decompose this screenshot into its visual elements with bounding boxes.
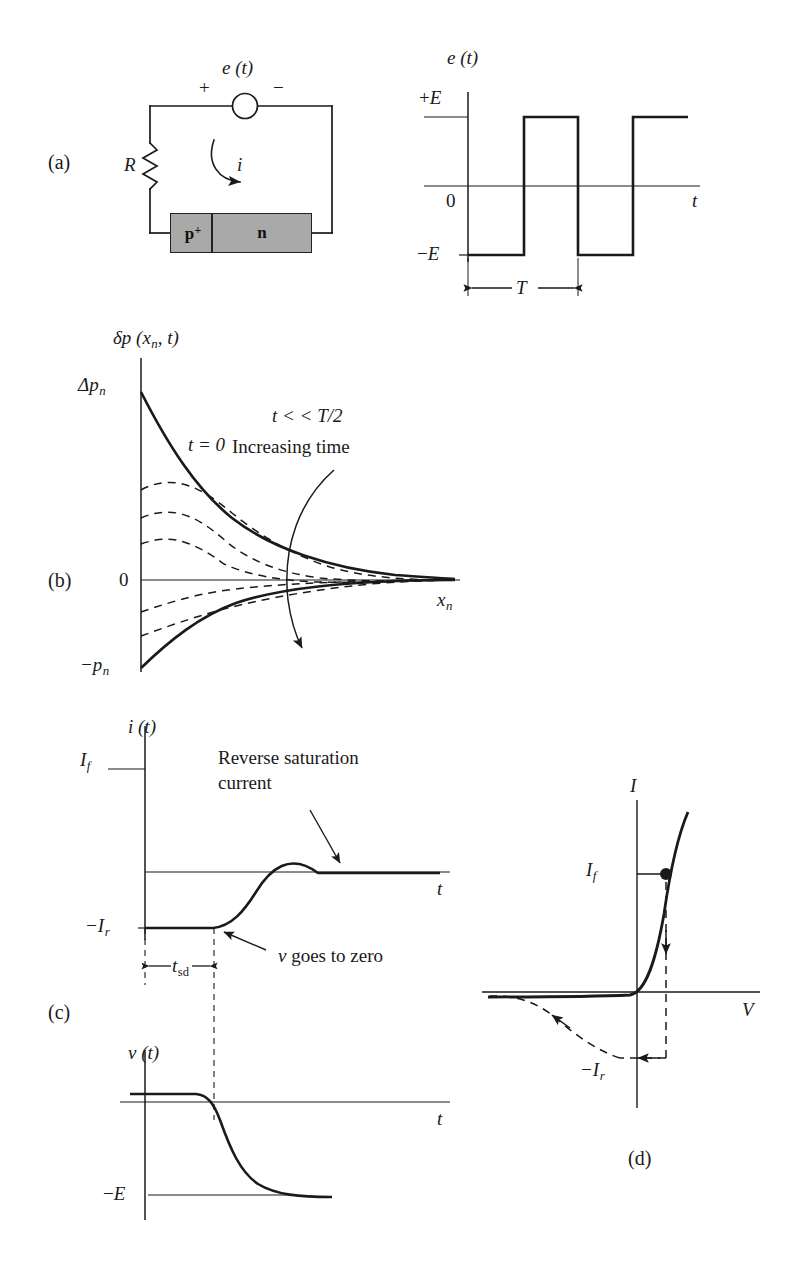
- iv-x-axis-label: V: [742, 1000, 754, 1019]
- waveform-y-axis-label: e (t): [447, 48, 478, 67]
- current-label-minus-ir: −Ir: [85, 916, 110, 939]
- current-x-axis-label: t: [437, 879, 442, 898]
- panel-a-waveform: [424, 92, 700, 296]
- diode-p-text: p: [185, 223, 194, 242]
- iv-reverse-recovery-path: [490, 996, 620, 1058]
- voltage-trace: [130, 1094, 332, 1197]
- carrier-tick-top-sub: n: [99, 383, 106, 398]
- panel-b-tag: (b): [48, 570, 71, 590]
- resistor-label: R: [124, 155, 136, 174]
- waveform-x-axis-label: t: [692, 191, 697, 210]
- voltage-label-minus-e: −E: [103, 1184, 125, 1203]
- iv-curve: [488, 812, 688, 997]
- carrier-annotation-condition: t < < T/2: [272, 406, 343, 425]
- carrier-y-axis-label-main: δp (x: [113, 327, 151, 348]
- storage-delay-label: tsd: [172, 956, 189, 979]
- source-label: e (t): [222, 58, 253, 77]
- carrier-x-axis-label-sub: n: [445, 598, 452, 613]
- current-label-minus-ir-main: −I: [85, 915, 104, 936]
- carrier-tick-zero: 0: [119, 570, 129, 589]
- carrier-tick-top: Δpn: [78, 375, 106, 398]
- current-label-if: If: [80, 750, 90, 773]
- carrier-tick-top-main: Δp: [78, 374, 99, 395]
- current-trace: [145, 863, 440, 928]
- waveform-label-zero: 0: [446, 191, 456, 210]
- v-goes-to-zero-leader: [224, 932, 266, 950]
- current-label-if-sub: f: [86, 758, 90, 773]
- iv-label-if-sub: f: [592, 868, 596, 883]
- panel-a-tag: (a): [48, 152, 70, 172]
- iv-label-minus-ir: −Ir: [580, 1060, 605, 1083]
- figure-root: p+ n (a) e (t) + − R i e (t) +E 0 −E t T…: [0, 0, 800, 1270]
- iv-label-if: If: [586, 860, 596, 883]
- carrier-y-axis-label-sub: n: [151, 336, 158, 351]
- reverse-saturation-annotation-line1: Reverse saturation: [218, 748, 359, 767]
- v-goes-to-zero-annotation: v goes to zero: [278, 946, 383, 965]
- carrier-annotation-t0: t = 0: [188, 435, 225, 454]
- iv-label-minus-ir-sub: r: [599, 1068, 605, 1083]
- carrier-curve-dashed-upper-2: [141, 512, 450, 581]
- current-y-axis-label: i (t): [128, 717, 156, 736]
- carrier-tick-bottom-sub: n: [102, 663, 109, 678]
- voltage-source-symbol: [233, 94, 258, 119]
- iv-y-axis-label: I: [630, 776, 636, 795]
- carrier-annotation-increasing-time: Increasing time: [232, 437, 350, 456]
- figure-vector-layer: [0, 0, 800, 1270]
- panel-d-tag: (d): [628, 1148, 651, 1168]
- panel-c-current-plot: [108, 726, 450, 1120]
- waveform-label-minus-e: −E: [417, 244, 439, 263]
- diode-p-region-label: p+: [176, 213, 210, 253]
- panel-c-voltage-plot: [120, 1050, 450, 1220]
- source-minus-sign: −: [273, 78, 284, 97]
- carrier-y-axis-label-tail: , t): [158, 327, 179, 348]
- current-label-minus-ir-sub: r: [104, 924, 110, 939]
- carrier-tick-bottom-main: −p: [80, 654, 102, 675]
- reverse-saturation-annotation-line2: current: [218, 773, 272, 792]
- diode-n-text: n: [257, 223, 266, 243]
- current-direction-arrow: [212, 140, 240, 182]
- iv-reverse-recovery-arrow: [552, 1015, 570, 1028]
- voltage-y-axis-label: v (t): [128, 1043, 159, 1062]
- waveform-label-plus-e: +E: [419, 88, 441, 107]
- current-label: i: [237, 155, 242, 174]
- storage-delay-label-sub: sd: [177, 965, 189, 979]
- panel-c-tag: (c): [48, 1002, 70, 1022]
- iv-label-minus-ir-main: −I: [580, 1059, 599, 1080]
- diode-p-superscript: +: [194, 223, 201, 237]
- carrier-tick-bottom: −pn: [80, 655, 109, 678]
- resistor-symbol: [143, 143, 157, 189]
- carrier-y-axis-label: δp (xn, t): [113, 328, 179, 351]
- diode-n-region-label: n: [213, 213, 311, 253]
- period-label: T: [516, 278, 527, 297]
- carrier-curve-t0-lower: [141, 580, 455, 668]
- iv-operating-point-marker: [660, 868, 672, 880]
- carrier-x-axis-label: xn: [437, 590, 452, 613]
- panel-d-iv-plot: [482, 800, 760, 1108]
- reverse-saturation-leader: [310, 810, 340, 863]
- carrier-curve-dashed-upper-1: [141, 482, 450, 580]
- voltage-x-axis-label: t: [437, 1109, 442, 1128]
- source-plus-sign: +: [199, 78, 210, 97]
